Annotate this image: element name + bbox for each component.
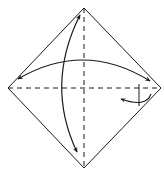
origami-diagram xyxy=(0,0,164,171)
turn-over-arrow xyxy=(121,94,151,103)
fold-top-bottom-arrow xyxy=(62,15,80,152)
